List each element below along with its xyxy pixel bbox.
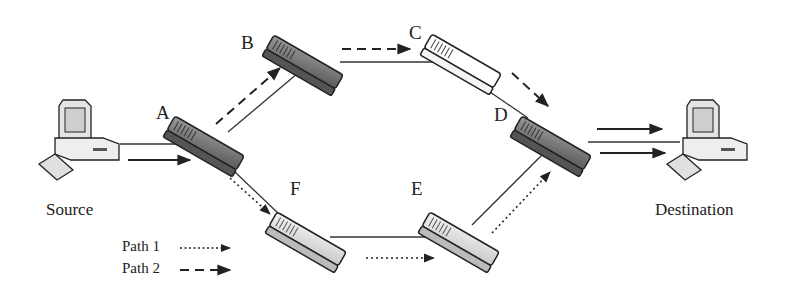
destination-computer-icon[interactable]	[667, 100, 747, 180]
node-label-a: A	[156, 102, 170, 124]
link-a-f	[235, 172, 280, 215]
network-diagram	[0, 0, 787, 292]
node-label-b: B	[241, 32, 254, 54]
node-label-d: D	[494, 104, 508, 126]
switch-c[interactable]	[420, 34, 501, 95]
source-computer-icon[interactable]	[39, 100, 119, 180]
switch-e[interactable]	[418, 212, 499, 273]
path1-arrow-a-f	[230, 178, 270, 214]
source-label: Source	[46, 200, 93, 220]
switch-d[interactable]	[510, 116, 591, 177]
legend-symbols	[180, 248, 230, 270]
switch-f[interactable]	[265, 212, 346, 273]
node-label-c: C	[409, 22, 422, 44]
node-label-e: E	[411, 178, 423, 200]
destination-label: Destination	[655, 200, 733, 220]
path1-arrow-e-d	[492, 172, 550, 233]
legend-path1-label: Path 1	[122, 238, 160, 255]
legend-path2-label: Path 2	[122, 260, 160, 277]
switch-a[interactable]	[163, 116, 244, 177]
node-label-f: F	[290, 178, 301, 200]
switch-b[interactable]	[262, 35, 343, 96]
path2-arrow-c-d	[512, 73, 548, 106]
